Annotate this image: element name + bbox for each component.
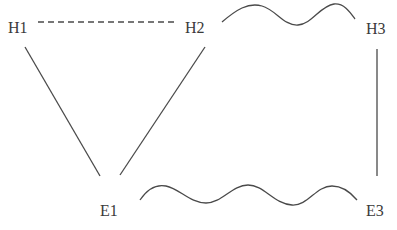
edge-e1-e3-wavy [140,185,357,205]
node-h3-label: H3 [366,20,386,37]
node-h1-label: H1 [8,19,28,36]
diagram-canvas: H1 H2 H3 E1 E3 [0,0,397,230]
edge-h1-e1 [25,47,100,176]
node-e3-label: E3 [366,202,384,219]
node-h2-label: H2 [185,19,205,36]
node-e1-label: E1 [100,202,118,219]
edge-h2-h3-wavy [222,4,355,25]
edge-h2-e1 [120,47,205,175]
